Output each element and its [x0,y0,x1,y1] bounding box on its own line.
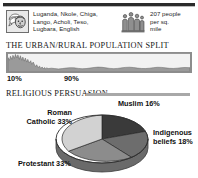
rural-percent-label: 90% [64,74,79,83]
crowd-people-icon [121,11,145,33]
languages-text: Luganda, Nkole, Chiga, Lango, Acholi, Te… [33,10,117,33]
urban-rural-chart [6,52,192,73]
speech-face-icon [6,10,29,33]
split-labels: 10% 90% [0,74,198,84]
urban-percent-label: 10% [7,74,22,83]
infographic-panel: Luganda, Nkole, Chiga, Lango, Acholi, Te… [0,0,198,178]
pie-label-indigenous: Indigenous beliefs 18% [153,129,198,146]
pie-label-protestant: Protestant 33% [18,160,71,169]
population-density-text: 207 people per sq. mile [150,10,196,33]
facts-row: Luganda, Nkole, Chiga, Lango, Acholi, Te… [0,9,198,38]
urban-rural-heading: THE URBAN/RURAL POPULATION SPLIT [6,41,169,50]
top-divider-shadow [3,6,195,7]
religion-chart-area: Muslim 16% Roman Catholic 33% Indigenous… [0,98,198,178]
pie-label-roman-catholic: Roman Catholic 33% [6,109,72,126]
religion-heading-rule [86,93,190,96]
pie-label-muslim: Muslim 16% [118,100,160,109]
